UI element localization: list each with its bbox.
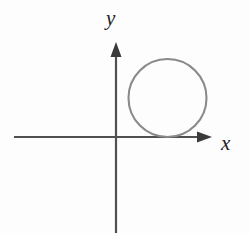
figure-canvas: y x — [0, 0, 249, 233]
y-axis-label: y — [106, 8, 115, 29]
x-axis-label: x — [221, 133, 230, 154]
tangent-circle — [129, 59, 207, 137]
x-axis-arrowhead — [197, 132, 212, 143]
coordinate-plane-graphic — [0, 0, 249, 233]
y-axis-arrowhead — [111, 42, 122, 57]
